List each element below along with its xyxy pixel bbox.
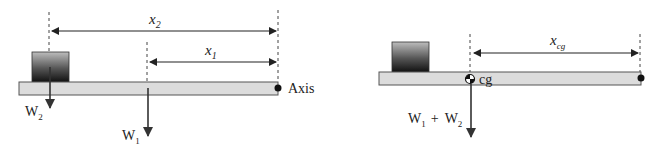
dimension-x2-label: x2 [148, 11, 161, 30]
axis-label: Axis [288, 81, 314, 96]
cg-label: cg [479, 72, 492, 87]
dimension-x1-label: x1 [204, 42, 217, 61]
weight-w1-label: W1 [122, 128, 140, 146]
combined-weight-label: W1+W2 [408, 111, 462, 129]
right-panel: xcg cg W1+W2 [379, 32, 645, 137]
axis-pivot-icon [275, 85, 282, 92]
moment-diagram: x2 x1 Axis W2 W1 xcg [0, 0, 656, 152]
weight-w2-label: W2 [25, 104, 43, 122]
dimension-xcg-label: xcg [549, 32, 566, 51]
cg-marker-icon [466, 75, 475, 84]
left-panel: x2 x1 Axis W2 W1 [19, 10, 314, 146]
beam-right [379, 72, 641, 85]
weight-box-right [392, 42, 429, 72]
axis-pivot-icon-right [638, 75, 645, 82]
